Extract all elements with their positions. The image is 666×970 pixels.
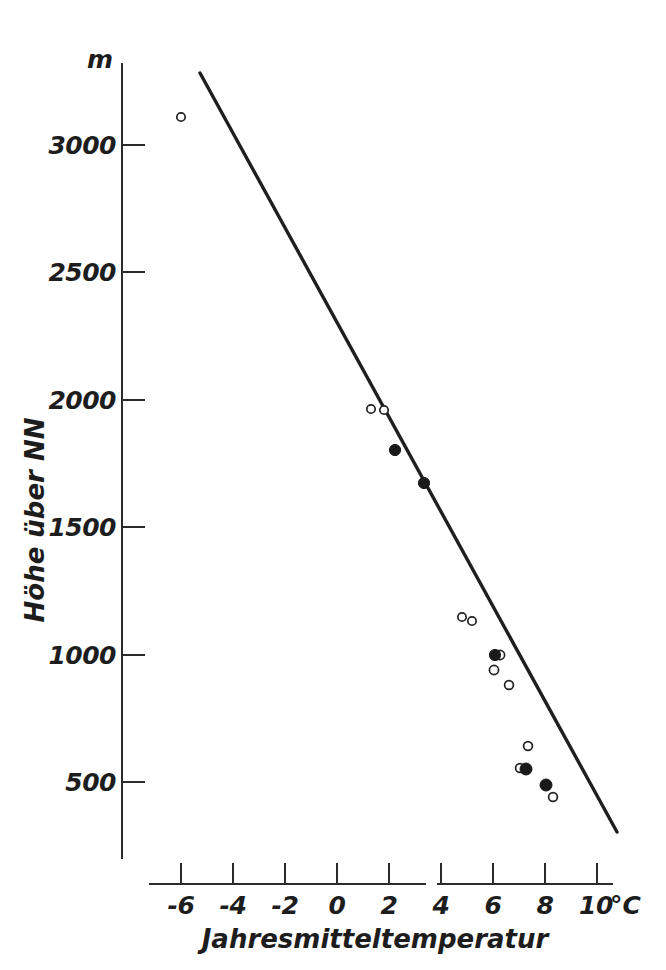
y-axis-tick-labels: 3000 2500 2000 1500 1000 500 <box>48 131 116 797</box>
data-point-open <box>177 113 185 121</box>
data-point-filled <box>389 444 400 455</box>
x-tick-label-minus2: -2 <box>272 891 299 920</box>
data-point-open <box>468 617 476 625</box>
y-tick-label-1500: 1500 <box>48 513 116 542</box>
x-tick-label-0: 0 <box>329 891 346 920</box>
data-point-open <box>524 742 533 751</box>
x-tick-label-minus4: -4 <box>220 891 247 920</box>
x-tick-label-10: 10 <box>579 891 613 920</box>
y-tick-label-1000: 1000 <box>48 641 116 670</box>
y-axis-unit-label: m <box>87 45 113 74</box>
data-point-open <box>505 681 514 690</box>
x-tick-label-minus6: -6 <box>168 891 195 920</box>
y-tick-label-500: 500 <box>65 768 116 797</box>
data-point-open <box>489 665 498 674</box>
open-circle-series <box>177 113 558 802</box>
y-tick-label-3000: 3000 <box>48 131 116 160</box>
scatter-plot: m 3000 2500 2000 1500 1000 500 -6 -4 -2 … <box>0 0 666 970</box>
figure-caption <box>60 956 658 970</box>
data-point-open <box>458 613 466 621</box>
y-axis-ticks <box>122 145 145 782</box>
y-tick-label-2000: 2000 <box>48 386 116 415</box>
x-tick-label-6: 6 <box>485 891 502 920</box>
x-tick-label-4: 4 <box>432 891 450 920</box>
data-point-filled <box>520 763 532 775</box>
y-axis-title: Höhe über NN <box>20 417 50 622</box>
x-tick-label-8: 8 <box>537 891 554 920</box>
x-axis-tick-labels: -6 -4 -2 0 2 4 6 8 10 °C <box>168 891 642 920</box>
regression-line <box>200 73 617 832</box>
figure-container: m 3000 2500 2000 1500 1000 500 -6 -4 -2 … <box>0 0 666 970</box>
x-axis-unit-label: °C <box>610 891 642 920</box>
y-tick-label-2500: 2500 <box>48 258 116 287</box>
data-point-filled <box>540 779 552 791</box>
x-axis-title: Jahresmitteltemperatur <box>197 924 551 954</box>
data-point-filled <box>418 477 429 488</box>
x-axis-ticks <box>181 863 597 884</box>
x-tick-label-2: 2 <box>381 891 398 920</box>
data-point-open <box>380 406 388 414</box>
data-point-open <box>367 405 375 413</box>
data-point-open <box>549 793 558 802</box>
data-point-filled <box>489 649 500 660</box>
